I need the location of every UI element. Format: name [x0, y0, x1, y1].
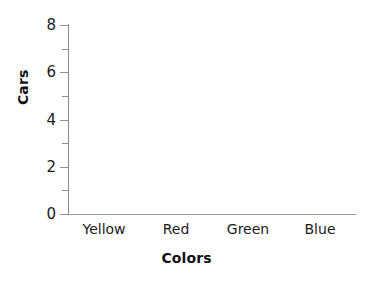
x-axis-category-label: Red [163, 221, 190, 237]
y-axis-major-tick [60, 120, 68, 121]
y-axis-major-tick [60, 214, 68, 215]
x-axis-category-label: Yellow [82, 221, 125, 237]
y-axis-minor-tick [62, 49, 68, 50]
x-axis-category-label: Blue [305, 221, 336, 237]
bar-chart-figure: 02468 Cars YellowRedGreenBlue Colors [0, 0, 373, 285]
y-axis-tick-label: 8 [16, 18, 56, 33]
y-axis-minor-tick [62, 143, 68, 144]
y-axis-tick-label: 0 [16, 207, 56, 222]
y-axis-major-tick [60, 25, 68, 26]
y-axis-minor-tick [62, 96, 68, 97]
x-axis-title: Colors [0, 250, 373, 266]
y-axis-major-tick [60, 72, 68, 73]
y-axis-tick-label: 2 [16, 160, 56, 175]
y-axis-minor-tick [62, 190, 68, 191]
plot-area [68, 25, 355, 214]
y-axis-major-tick [60, 167, 68, 168]
x-axis-line [68, 214, 356, 215]
y-axis-title: Cars [15, 87, 31, 105]
y-axis-tick-label: 4 [16, 113, 56, 128]
y-axis-line [68, 24, 69, 215]
x-axis-category-label: Green [227, 221, 269, 237]
